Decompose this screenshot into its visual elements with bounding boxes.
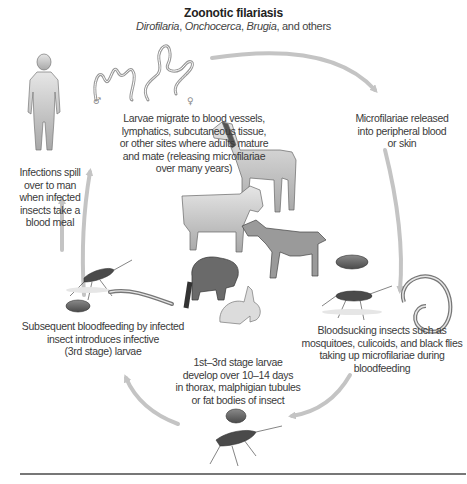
bottom-divider	[20, 473, 466, 475]
step-label-transmit: Subsequent bloodfeeding by infected inse…	[8, 320, 198, 358]
rabbit-icon	[220, 286, 260, 324]
adult-worms-icon	[95, 46, 193, 100]
step-label-release: Microfilariae released into peripheral b…	[340, 112, 464, 150]
step-label-spill: Infections spill over to man when infect…	[12, 166, 88, 229]
arrow-right	[385, 150, 401, 290]
human-icon	[28, 54, 60, 150]
step-label-develop: 1st–3rd stage larvae develop over 10–14 …	[168, 356, 308, 406]
female-symbol: ♀	[187, 96, 194, 106]
dog-icon	[242, 220, 326, 278]
arrow-top	[212, 53, 375, 90]
insects-left-icon	[66, 260, 132, 312]
insects-right-icon	[322, 255, 392, 320]
life-cycle-artwork: ♂ ♀	[0, 0, 467, 484]
male-symbol: ♂	[93, 96, 101, 106]
insects-bottom-icon	[210, 409, 282, 466]
step-label-migrate: Larvae migrate to blood vessels, lymphat…	[96, 112, 292, 175]
raccoon-icon	[186, 257, 238, 308]
step-label-uptake: Bloodsucking insects such as mosquitoes,…	[298, 324, 466, 374]
cow-icon	[182, 186, 263, 252]
infective-larva-icon	[110, 291, 172, 304]
